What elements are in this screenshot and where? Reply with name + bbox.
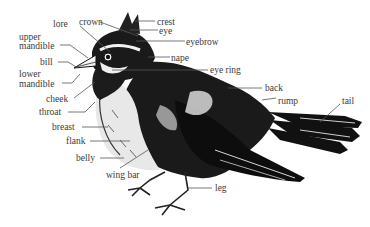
label-upper-mandible-2: mandible xyxy=(19,41,54,51)
label-eye-ring: eye ring xyxy=(210,65,241,75)
label-tail: tail xyxy=(342,96,354,106)
label-nape: nape xyxy=(171,53,189,63)
label-flank: flank xyxy=(66,136,86,146)
label-leg: leg xyxy=(215,183,227,193)
bird-anatomy-diagram: crown crest eye eyebrow lore upper mandi… xyxy=(0,0,370,227)
label-cheek: cheek xyxy=(46,94,68,104)
label-throat: throat xyxy=(39,107,61,117)
bird-crest xyxy=(118,12,140,34)
label-lore: lore xyxy=(53,19,68,29)
label-lower-mandible-2: mandible xyxy=(19,79,54,89)
label-bill: bill xyxy=(40,57,53,67)
label-belly: belly xyxy=(76,153,95,163)
label-back: back xyxy=(265,83,283,93)
label-eyebrow: eyebrow xyxy=(186,37,219,47)
bird-tail xyxy=(268,112,362,154)
label-breast: breast xyxy=(52,122,75,132)
label-lower-mandible-1: lower xyxy=(19,69,41,79)
label-eye: eye xyxy=(159,26,172,36)
label-rump: rump xyxy=(278,96,298,106)
bird-bill xyxy=(74,55,96,68)
label-crown: crown xyxy=(79,17,103,27)
label-wing-bar: wing bar xyxy=(106,170,140,180)
